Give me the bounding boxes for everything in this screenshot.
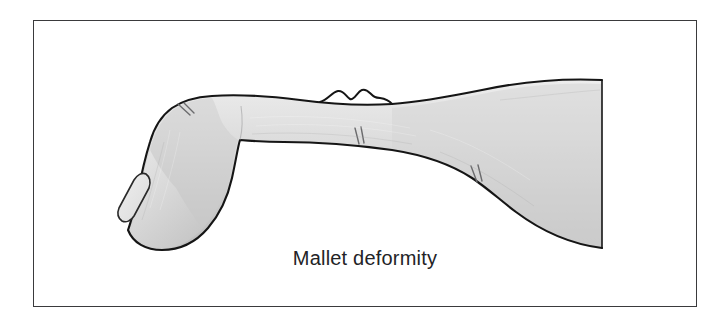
dorsum-shading-band — [392, 83, 602, 248]
caption-layer: Mallet deformity — [33, 245, 697, 271]
mcp-knuckle-bumps — [320, 90, 392, 104]
mallet-deformity-illustration — [0, 0, 724, 326]
figure-caption: Mallet deformity — [293, 245, 437, 271]
figure-root: Mallet deformity — [0, 0, 724, 326]
